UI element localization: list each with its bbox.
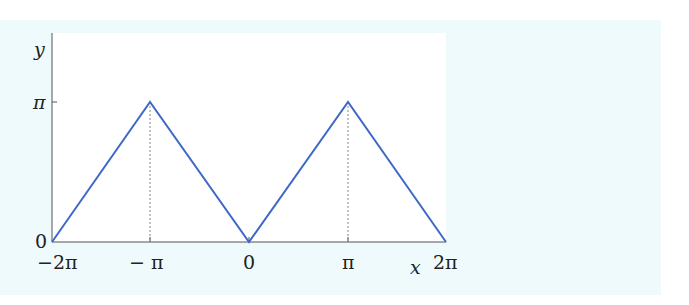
y-axis-label: y <box>34 40 45 59</box>
x-tick-label-minus-2pi: −2π <box>37 253 78 272</box>
x-tick-label-pi: π <box>342 253 355 272</box>
x-tick-label-zero: 0 <box>243 253 255 272</box>
y-tick-label-zero: 0 <box>35 232 47 251</box>
triangle-wave-series <box>52 102 446 242</box>
y-tick-label-pi: π <box>33 93 46 112</box>
x-tick-label-2pi: 2π <box>433 253 458 272</box>
x-tick-label-minus-pi: − π <box>129 253 163 272</box>
x-axis-label: x <box>410 258 421 277</box>
